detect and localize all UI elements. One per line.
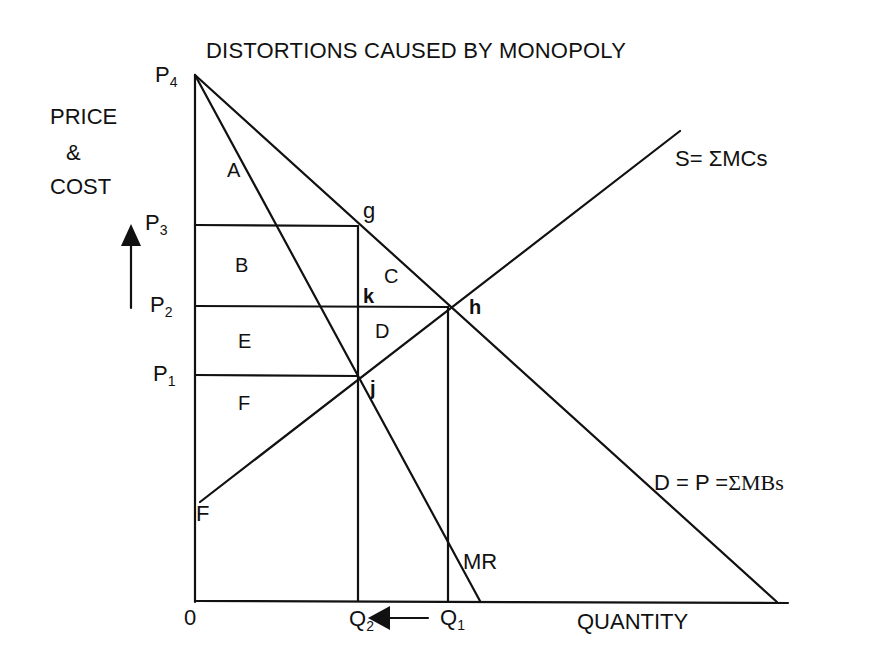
region-d-label: D: [375, 321, 389, 341]
point-k-label: k: [363, 286, 374, 306]
price-tick-p2: P2: [150, 294, 172, 319]
region-a-label: A: [227, 160, 240, 180]
y-axis-label-price: PRICE: [50, 106, 117, 128]
demand-curve-label: D = P =ΣMBs: [654, 472, 784, 494]
supply-curve: [200, 131, 680, 502]
region-f-label: F: [238, 393, 250, 413]
quantity-tick-q2: Q2: [349, 608, 374, 633]
x-axis-label: QUANTITY: [577, 611, 688, 633]
region-e-label: E: [238, 331, 251, 351]
point-j-label: j: [370, 378, 376, 398]
p1-line: [195, 375, 358, 376]
price-tick-p4: P4: [155, 64, 177, 89]
price-tick-p3: P3: [145, 212, 167, 237]
monopoly-diagram: [0, 0, 870, 669]
diagram-title: DISTORTIONS CAUSED BY MONOPOLY: [206, 40, 626, 62]
p2-line: [195, 306, 448, 307]
arrow-up-icon: [121, 224, 141, 246]
region-b-label: B: [235, 255, 248, 275]
quantity-tick-q1: Q1: [440, 607, 465, 632]
point-f-label: F: [196, 503, 209, 525]
price-tick-p1: P1: [153, 363, 175, 388]
region-c-label: C: [384, 266, 398, 286]
p3-line: [195, 225, 358, 226]
mr-curve-label: MR: [463, 551, 497, 573]
origin-label: 0: [184, 607, 196, 629]
y-axis-label-cost: COST: [50, 176, 111, 198]
x-axis: [195, 601, 788, 603]
point-h-label: h: [469, 297, 481, 317]
supply-curve-label: S= ΣMCs: [675, 148, 767, 170]
point-g-label: g: [363, 200, 375, 222]
y-axis-label-amp: &: [66, 142, 81, 164]
